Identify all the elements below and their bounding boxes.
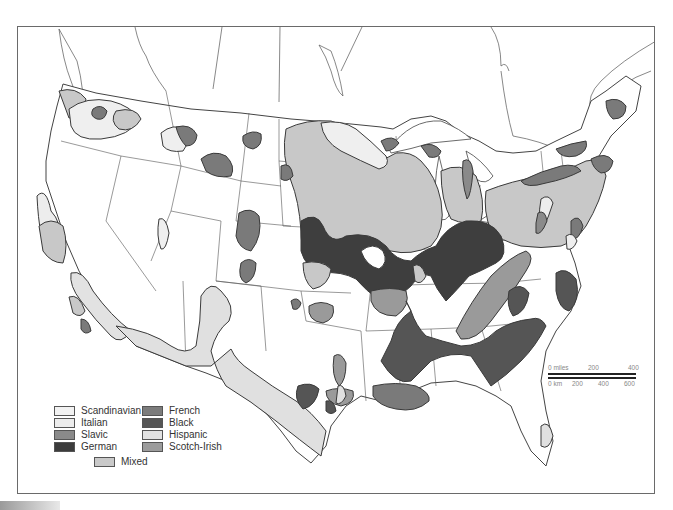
legend-item-mixed: Mixed: [94, 456, 148, 467]
legend-item-hispanic: Hispanic: [142, 429, 207, 440]
legend-item-scandinavian: Scandinavian: [54, 405, 141, 416]
page-edge-shadow: [0, 501, 60, 510]
legend-item-german: German: [54, 441, 117, 452]
swatch: [142, 418, 163, 428]
km-bar: [548, 377, 636, 379]
swatch: [142, 406, 163, 416]
region-french: [81, 319, 91, 333]
swatch: [54, 406, 75, 416]
map-frame: [17, 26, 655, 494]
miles-bar: [548, 373, 636, 375]
region-mixed: [39, 221, 66, 263]
legend-item-french: French: [142, 405, 200, 416]
legend-item-scotch-irish: Scotch-Irish: [142, 441, 222, 452]
swatch: [142, 430, 163, 440]
swatch: [142, 442, 163, 452]
swatch: [54, 418, 75, 428]
region-french: [92, 106, 107, 119]
swatch: [54, 442, 75, 452]
us-map: [17, 26, 655, 494]
legend-item-italian: Italian: [54, 417, 108, 428]
legend-item-black: Black: [142, 417, 193, 428]
region-french: [243, 132, 262, 149]
legend-item-slavic: Slavic: [54, 429, 108, 440]
swatch: [54, 430, 75, 440]
swatch: [94, 457, 115, 467]
